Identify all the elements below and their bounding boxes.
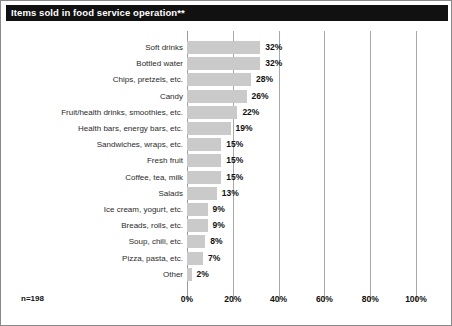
category-label: Coffee, tea, milk — [3, 171, 183, 184]
bar-value-label: 26% — [252, 90, 269, 103]
category-label: Health bars, energy bars, etc. — [3, 122, 183, 135]
page-title: Items sold in food service operation** — [11, 7, 185, 18]
bar — [187, 268, 192, 281]
bar-value-label: 22% — [242, 106, 259, 119]
bar-row: Fresh fruit15% — [1, 154, 452, 167]
category-label: Candy — [3, 90, 183, 103]
chart-card: Items sold in food service operation** S… — [0, 0, 452, 326]
bar — [187, 106, 237, 119]
bar-row: Health bars, energy bars, etc.19% — [1, 122, 452, 135]
category-label: Chips, pretzels, etc. — [3, 73, 183, 86]
bar-row: Sandwiches, wraps, etc.15% — [1, 138, 452, 151]
x-tick-label: 80% — [350, 294, 390, 304]
category-label: Bottled water — [3, 57, 183, 70]
bar — [187, 219, 208, 232]
bar-row: Breads, rolls, etc.9% — [1, 219, 452, 232]
bar-value-label: 9% — [213, 203, 225, 216]
bar — [187, 235, 205, 248]
bar-row: Bottled water32% — [1, 57, 452, 70]
bar-value-label: 7% — [208, 252, 220, 265]
bar-value-label: 32% — [265, 57, 282, 70]
bar — [187, 41, 260, 54]
bar — [187, 252, 203, 265]
category-label: Salads — [3, 187, 183, 200]
bar-row: Fruit/health drinks, smoothies, etc.22% — [1, 106, 452, 119]
category-label: Soup, chili, etc. — [3, 235, 183, 248]
bar-row: Candy26% — [1, 90, 452, 103]
x-tick-label: 20% — [213, 294, 253, 304]
x-tick-label: 100% — [396, 294, 436, 304]
bar-row: Pizza, pasta, etc.7% — [1, 252, 452, 265]
category-label: Fruit/health drinks, smoothies, etc. — [3, 106, 183, 119]
bar — [187, 154, 221, 167]
category-label: Ice cream, yogurt, etc. — [3, 203, 183, 216]
bar — [187, 90, 247, 103]
bar-value-label: 8% — [210, 235, 222, 248]
bar-row: Soft drinks32% — [1, 41, 452, 54]
bar — [187, 187, 217, 200]
bar-row: Soup, chili, etc.8% — [1, 235, 452, 248]
bar-value-label: 28% — [256, 73, 273, 86]
bar — [187, 203, 208, 216]
sample-size-note: n=198 — [21, 294, 44, 303]
chart-title-bar: Items sold in food service operation** — [6, 5, 448, 21]
category-label: Pizza, pasta, etc. — [3, 252, 183, 265]
bar-value-label: 15% — [226, 138, 243, 151]
bar-value-label: 13% — [222, 187, 239, 200]
bar-value-label: 19% — [236, 122, 253, 135]
bar-row: Other2% — [1, 268, 452, 281]
x-tick-label: 60% — [304, 294, 344, 304]
bar — [187, 57, 260, 70]
category-label: Fresh fruit — [3, 154, 183, 167]
bar-row: Coffee, tea, milk15% — [1, 171, 452, 184]
x-tick-label: 40% — [259, 294, 299, 304]
bar-value-label: 9% — [213, 219, 225, 232]
bar-value-label: 15% — [226, 171, 243, 184]
category-label: Soft drinks — [3, 41, 183, 54]
x-tick-label: 0% — [167, 294, 207, 304]
category-label: Breads, rolls, etc. — [3, 219, 183, 232]
bar — [187, 73, 251, 86]
bar — [187, 138, 221, 151]
category-label: Sandwiches, wraps, etc. — [3, 138, 183, 151]
category-label: Other — [3, 268, 183, 281]
bar-row: Salads13% — [1, 187, 452, 200]
bar-value-label: 32% — [265, 41, 282, 54]
bar-row: Chips, pretzels, etc.28% — [1, 73, 452, 86]
bar-value-label: 15% — [226, 154, 243, 167]
plot-area: Soft drinks32%Bottled water32%Chips, pre… — [1, 23, 452, 305]
bar-row: Ice cream, yogurt, etc.9% — [1, 203, 452, 216]
bar-value-label: 2% — [197, 268, 209, 281]
bar — [187, 122, 231, 135]
bar — [187, 171, 221, 184]
